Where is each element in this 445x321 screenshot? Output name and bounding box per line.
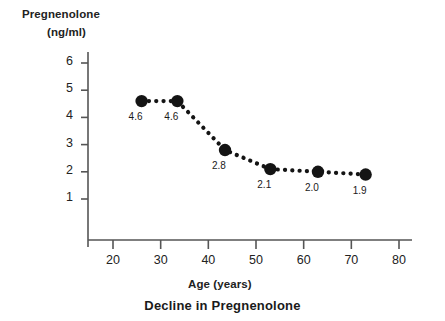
y-axis-tick-label: 2: [55, 163, 73, 177]
data-point-marker: [312, 166, 324, 178]
x-axis-tick-label: 60: [291, 253, 317, 267]
x-axis-tick-label: 50: [243, 253, 269, 267]
data-point-label: 2.0: [305, 182, 319, 193]
data-point-marker: [219, 144, 231, 156]
y-axis-tick-label: 6: [55, 54, 73, 68]
data-point-label: 2.8: [212, 160, 226, 171]
figure-caption: Decline in Pregnenolone: [0, 298, 445, 313]
x-axis-tick-label: 20: [100, 253, 126, 267]
y-axis-tick-label: 5: [55, 81, 73, 95]
x-axis-tick-label: 40: [195, 253, 221, 267]
data-point-marker: [171, 95, 183, 107]
data-point-label: 1.9: [353, 185, 367, 196]
data-point-marker: [359, 168, 371, 180]
data-point-label: 2.1: [257, 179, 271, 190]
x-axis-tick-label: 80: [386, 253, 412, 267]
y-axis-tick-label: 3: [55, 136, 73, 150]
chart-figure: Pregnenolone (ng/ml) 6543212030405060708…: [0, 0, 445, 321]
x-axis-tick-label: 30: [148, 253, 174, 267]
y-axis-tick-label: 1: [55, 190, 73, 204]
data-point-label: 4.6: [129, 111, 143, 122]
y-axis-tick-label: 4: [55, 108, 73, 122]
data-point-label: 4.6: [164, 111, 178, 122]
x-axis-label: Age (years): [188, 278, 252, 290]
data-point-marker: [135, 95, 147, 107]
data-point-marker: [264, 163, 276, 175]
x-axis-tick-label: 70: [338, 253, 364, 267]
